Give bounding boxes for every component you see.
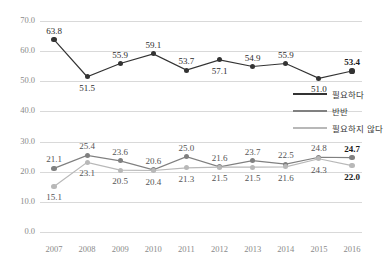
data-label: 55.9 bbox=[266, 50, 306, 60]
data-label: 21.1 bbox=[34, 154, 74, 164]
data-label: 59.1 bbox=[133, 40, 173, 50]
data-point bbox=[151, 168, 156, 173]
data-point bbox=[250, 165, 255, 170]
data-point bbox=[118, 168, 123, 173]
line-chart: 0.010.020.030.040.050.060.070.0 63.851.5… bbox=[0, 0, 390, 265]
legend-swatch bbox=[293, 127, 327, 129]
data-point bbox=[85, 160, 90, 165]
data-label: 55.9 bbox=[100, 50, 140, 60]
data-point bbox=[349, 163, 354, 168]
data-label: 51.5 bbox=[67, 83, 107, 93]
data-label: 22.0 bbox=[332, 172, 372, 182]
data-point bbox=[85, 153, 90, 158]
legend-item[interactable]: 필요하지 않다 bbox=[293, 122, 383, 134]
data-point bbox=[51, 37, 56, 42]
legend-label: 반반 bbox=[332, 105, 348, 117]
data-label: 57.1 bbox=[200, 66, 240, 76]
data-label: 53.7 bbox=[166, 56, 206, 66]
data-point bbox=[349, 68, 354, 73]
data-label: 25.0 bbox=[166, 143, 206, 153]
data-point bbox=[118, 61, 123, 66]
data-point bbox=[349, 155, 354, 160]
data-label: 20.6 bbox=[133, 156, 173, 166]
data-point bbox=[51, 184, 56, 189]
data-point bbox=[51, 166, 56, 171]
data-label: 24.7 bbox=[332, 144, 372, 154]
data-label: 63.8 bbox=[34, 26, 74, 36]
legend-item[interactable]: 필요하다 bbox=[293, 88, 364, 100]
x-axis-tick-label: 2016 bbox=[332, 244, 372, 254]
legend-swatch bbox=[293, 110, 327, 112]
legend-item[interactable]: 반반 bbox=[293, 105, 348, 117]
legend-label: 필요하지 않다 bbox=[332, 122, 383, 134]
data-point bbox=[184, 68, 189, 73]
legend-label: 필요하다 bbox=[332, 88, 364, 100]
data-label: 53.4 bbox=[332, 57, 372, 67]
data-label: 15.1 bbox=[34, 192, 74, 202]
legend-swatch bbox=[293, 93, 327, 95]
data-point bbox=[217, 165, 222, 170]
data-point bbox=[85, 74, 90, 79]
